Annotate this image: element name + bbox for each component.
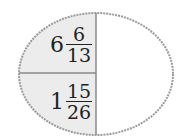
fraction: 6 13 [66,24,92,65]
numerator: 15 [66,81,92,101]
denominator: 13 [66,45,92,65]
whole-part: 1 [50,89,64,114]
mixed-number-top: 6 6 13 [50,24,92,65]
whole-part: 6 [50,32,64,57]
fraction: 15 26 [66,81,92,122]
denominator: 26 [66,102,92,122]
mixed-number-bottom: 1 15 26 [50,81,92,122]
numerator: 6 [72,24,86,44]
